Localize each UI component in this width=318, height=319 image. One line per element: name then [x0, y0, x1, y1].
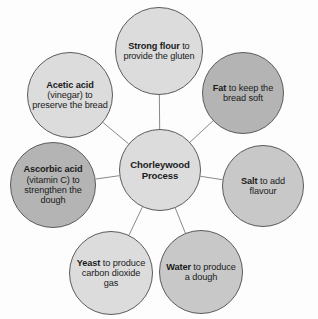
edge-center-salt	[201, 176, 223, 179]
chorleywood-process-diagram: Chorleywood ProcessStrong flour to provi…	[0, 0, 318, 319]
node-label-yeast: Yeast to produce carbon dioxide gas	[70, 258, 152, 289]
node-label-name-salt: Salt	[241, 176, 257, 186]
node-label-name-acetic-acid: Acetic acid	[46, 80, 93, 90]
node-label-name-fat: Fat	[213, 83, 226, 93]
node-label-fat: Fat to keep the bread soft	[203, 83, 283, 104]
node-label-description-acetic-acid: (vinegar) to preserve the bread	[32, 90, 107, 110]
node-ascorbic-acid[interactable]: Ascorbic acid (vitamin C) to strengthen …	[10, 142, 96, 228]
node-label-ascorbic-acid: Ascorbic acid (vitamin C) to strengthen …	[11, 164, 95, 205]
node-label-salt: Salt to add flavour	[223, 176, 303, 197]
node-label-name-yeast: Yeast	[77, 258, 101, 268]
edge-center-acetic-acid	[103, 123, 128, 144]
node-label-name-ascorbic-acid: Ascorbic acid	[24, 164, 83, 174]
node-fat[interactable]: Fat to keep the bread soft	[202, 52, 284, 134]
node-salt[interactable]: Salt to add flavour	[222, 145, 304, 227]
node-label-acetic-acid: Acetic acid (vinegar) to preserve the br…	[28, 80, 112, 111]
node-acetic-acid[interactable]: Acetic acid (vinegar) to preserve the br…	[27, 52, 113, 138]
node-label-description-fat: to keep the bread soft	[223, 83, 273, 103]
node-label-name-water: Water	[166, 262, 191, 272]
node-label-description-water: to produce a dough	[185, 262, 236, 282]
node-label-description-center: Process	[142, 170, 179, 181]
edge-center-yeast	[129, 207, 142, 235]
node-center[interactable]: Chorleywood Process	[119, 129, 201, 211]
edge-center-fat	[190, 121, 213, 142]
node-water[interactable]: Water to produce a dough	[159, 230, 243, 314]
node-label-center: Chorleywood Process	[120, 159, 200, 182]
edge-center-ascorbic-acid	[96, 176, 120, 179]
node-strong-flour[interactable]: Strong flour to provide the gluten	[115, 7, 203, 95]
node-yeast[interactable]: Yeast to produce carbon dioxide gas	[69, 231, 153, 315]
node-label-description-ascorbic-acid: (vitamin C) to strengthen the dough	[24, 175, 81, 206]
node-label-strong-flour: Strong flour to provide the gluten	[116, 41, 202, 62]
node-label-name-center: Chorleywood	[130, 159, 190, 170]
edge-center-water	[175, 208, 185, 233]
node-label-water: Water to produce a dough	[160, 262, 242, 283]
node-label-name-strong-flour: Strong flour	[128, 41, 179, 51]
